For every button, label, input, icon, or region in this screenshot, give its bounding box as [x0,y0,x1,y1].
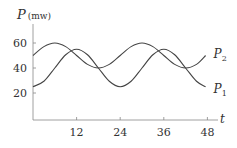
x-tick-label: 48 [200,126,214,139]
series-label-p2: P2 [213,47,227,63]
y-tick-label: 60 [13,37,27,50]
y-axis-unit: (mw) [28,11,51,21]
series-line-p2 [33,43,206,68]
x-tick-label: 24 [113,126,127,139]
y-ticks: 204060 [13,37,36,100]
x-axis-label: t [220,112,225,126]
series-lines [33,43,206,87]
x-tick-label: 12 [70,126,84,139]
series-label-p1: P1 [213,82,227,98]
y-tick-label: 40 [13,62,27,75]
series-labels: P1P2 [213,47,227,98]
y-tick-label: 20 [13,87,27,100]
line-chart: P(mw) t 204060 12243648 P1P2 [0,0,237,148]
y-axis-var: P [16,7,26,22]
y-axis-label: P(mw) [16,7,51,22]
x-tick-label: 36 [157,126,171,139]
series-line-p1 [33,49,206,87]
